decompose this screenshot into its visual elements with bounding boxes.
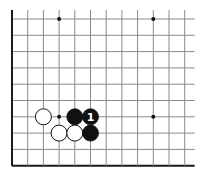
white-stone-icon bbox=[67, 125, 83, 141]
star-point-icon bbox=[151, 17, 155, 21]
black-stone bbox=[67, 109, 83, 125]
white-stone-icon bbox=[51, 125, 67, 141]
black-stone: 1 bbox=[83, 109, 99, 125]
black-stone-icon bbox=[83, 125, 99, 141]
star-point-icon bbox=[57, 17, 61, 21]
black-stone-icon bbox=[67, 109, 83, 125]
white-stone bbox=[67, 125, 83, 141]
white-stone-icon bbox=[35, 109, 51, 125]
white-stone bbox=[51, 125, 67, 141]
white-stone bbox=[35, 109, 51, 125]
move-number-label: 1 bbox=[87, 111, 95, 124]
stones: 1 bbox=[35, 109, 98, 141]
star-point-icon bbox=[151, 115, 155, 119]
black-stone bbox=[83, 125, 99, 141]
go-board-diagram: 1 bbox=[0, 0, 202, 176]
board-grid bbox=[12, 10, 195, 166]
star-point-icon bbox=[57, 115, 61, 119]
